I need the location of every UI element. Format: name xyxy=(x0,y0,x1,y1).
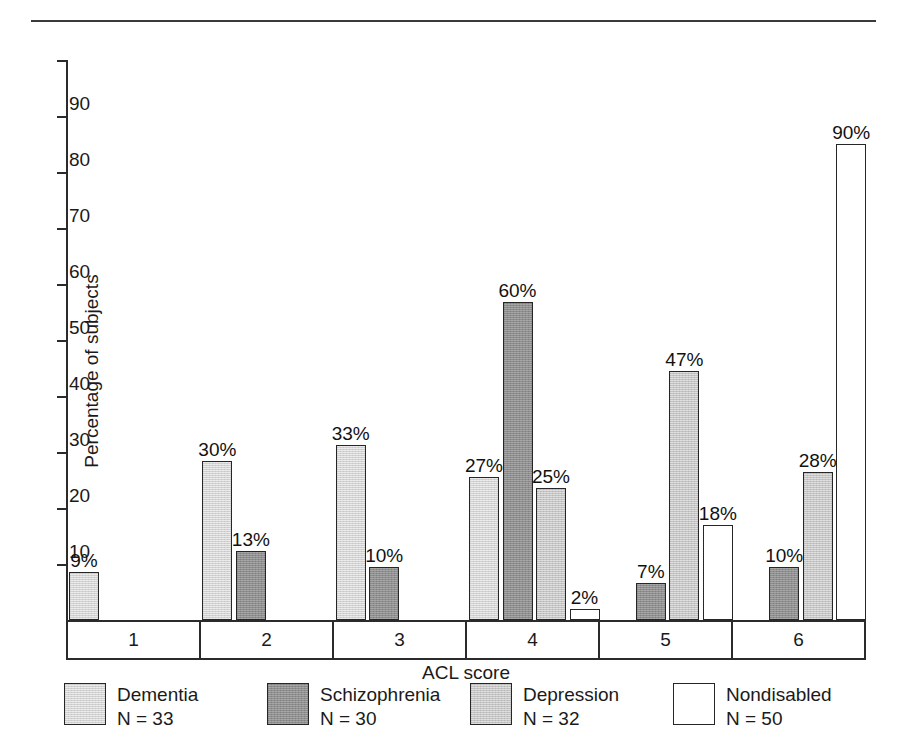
bar-value-label: 10% xyxy=(365,546,403,567)
legend-item: SchizophreniaN = 30 xyxy=(267,682,470,742)
header-divider xyxy=(31,20,876,22)
y-axis-tick xyxy=(57,228,68,230)
bar xyxy=(469,477,499,620)
x-axis-title: ACL score xyxy=(66,662,866,684)
bar xyxy=(669,371,699,620)
bar xyxy=(803,472,833,620)
legend-sample-size: N = 30 xyxy=(320,707,440,731)
bar xyxy=(369,567,399,620)
bar-value-label: 18% xyxy=(699,504,737,525)
bar xyxy=(536,488,566,620)
bar-value-label: 27% xyxy=(465,456,503,477)
category-cell: 2 xyxy=(201,622,334,658)
bar-value-label: 25% xyxy=(532,467,570,488)
category-cell: 5 xyxy=(600,622,733,658)
bar-value-label: 30% xyxy=(198,440,236,461)
chart-legend: DementiaN = 33SchizophreniaN = 30Depress… xyxy=(64,682,876,742)
legend-label: Depression xyxy=(523,683,619,707)
legend-label: Schizophrenia xyxy=(320,683,440,707)
y-axis-tick xyxy=(57,564,68,566)
bar xyxy=(69,572,99,620)
y-axis-tick xyxy=(57,340,68,342)
legend-text: SchizophreniaN = 30 xyxy=(320,682,440,730)
legend-label: Nondisabled xyxy=(726,683,832,707)
y-axis-tick-label: 80 xyxy=(69,150,90,172)
legend-swatch xyxy=(267,683,309,725)
bar-value-label: 2% xyxy=(571,588,598,609)
bar-value-label: 90% xyxy=(832,123,870,144)
y-axis-tick xyxy=(57,172,68,174)
bar-chart-figure: 102030405060708090 9%30%13%33%10%27%60%2… xyxy=(0,0,899,755)
y-axis-tick xyxy=(57,396,68,398)
bar xyxy=(202,461,232,620)
bar xyxy=(769,567,799,620)
legend-sample-size: N = 32 xyxy=(523,707,619,731)
legend-swatch xyxy=(673,683,715,725)
bar xyxy=(503,302,533,620)
y-axis-title: Percentage of subjects xyxy=(81,211,103,531)
bar-value-label: 33% xyxy=(332,424,370,445)
category-cell: 3 xyxy=(334,622,467,658)
y-axis-tick xyxy=(57,60,68,62)
y-axis-tick xyxy=(57,116,68,118)
bar xyxy=(236,551,266,620)
legend-item: NondisabledN = 50 xyxy=(673,682,876,742)
legend-sample-size: N = 33 xyxy=(117,707,198,731)
bar xyxy=(336,445,366,620)
y-axis-tick xyxy=(57,284,68,286)
bar-value-label: 13% xyxy=(232,530,270,551)
legend-text: NondisabledN = 50 xyxy=(726,682,832,730)
bar xyxy=(836,144,866,620)
legend-sample-size: N = 50 xyxy=(726,707,832,731)
bar-value-label: 9% xyxy=(70,551,97,572)
legend-label: Dementia xyxy=(117,683,198,707)
bar-value-label: 7% xyxy=(637,562,664,583)
bar-value-label: 10% xyxy=(765,546,803,567)
bar xyxy=(636,583,666,620)
bar-value-label: 60% xyxy=(498,281,536,302)
plot-area: 102030405060708090 9%30%13%33%10%27%60%2… xyxy=(66,60,866,620)
y-axis-tick-label: 90 xyxy=(69,94,90,116)
legend-text: DepressionN = 32 xyxy=(523,682,619,730)
bar xyxy=(703,525,733,620)
category-axis-band: 123456 xyxy=(66,620,866,660)
bar-value-label: 28% xyxy=(799,451,837,472)
category-cell: 1 xyxy=(68,622,201,658)
legend-swatch xyxy=(470,683,512,725)
bar-value-label: 47% xyxy=(665,350,703,371)
y-axis-tick xyxy=(57,508,68,510)
y-axis-tick xyxy=(57,452,68,454)
legend-item: DepressionN = 32 xyxy=(470,682,673,742)
category-cell: 4 xyxy=(467,622,600,658)
legend-item: DementiaN = 33 xyxy=(64,682,267,742)
bar xyxy=(570,609,600,620)
legend-swatch xyxy=(64,683,106,725)
legend-text: DementiaN = 33 xyxy=(117,682,198,730)
category-cell: 6 xyxy=(733,622,864,658)
